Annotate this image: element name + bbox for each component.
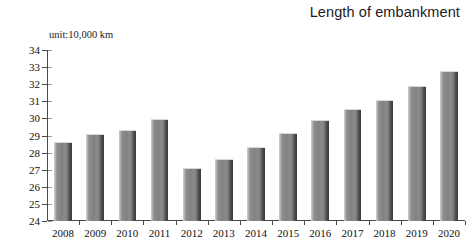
- x-axis-tick: [240, 221, 241, 225]
- bar-group: 2020: [440, 50, 458, 221]
- bar-group: 2014: [247, 50, 265, 221]
- x-axis-tick: [143, 221, 144, 225]
- bar: [440, 71, 458, 221]
- x-axis-tick-label: 2016: [309, 227, 331, 239]
- y-axis-tick-label: 29: [29, 130, 40, 142]
- x-axis-tick: [208, 221, 209, 225]
- x-axis-tick: [272, 221, 273, 225]
- x-axis-tick: [336, 221, 337, 225]
- x-axis-tick-label: 2008: [52, 227, 74, 239]
- y-axis-tick-label: 27: [29, 164, 40, 176]
- bar: [376, 100, 394, 221]
- bar-group: 2019: [408, 50, 426, 221]
- y-axis-tick: [42, 187, 47, 188]
- bar: [311, 120, 329, 221]
- y-axis-tick-label: 26: [29, 181, 40, 193]
- bar-group: 2018: [376, 50, 394, 221]
- y-axis-grid-stub: [48, 170, 52, 171]
- y-axis-tick-label: 28: [29, 147, 40, 159]
- y-axis-tick-label: 24: [29, 215, 40, 227]
- bar: [183, 168, 201, 221]
- y-axis-tick: [42, 136, 47, 137]
- bar-group: 2008: [54, 50, 72, 221]
- bar: [408, 86, 426, 221]
- bar: [54, 142, 72, 221]
- plot-area: 2425262728293031323334 20082009201020112…: [47, 50, 465, 221]
- y-axis-tick-label: 34: [29, 44, 40, 56]
- x-axis-tick: [79, 221, 80, 225]
- x-axis-tick-label: 2010: [116, 227, 138, 239]
- y-axis-tick-label: 31: [29, 95, 40, 107]
- y-axis-tick-label: 30: [29, 112, 40, 124]
- x-axis-tick-label: 2015: [277, 227, 299, 239]
- x-axis-tick: [369, 221, 370, 225]
- bar-group: 2015: [279, 50, 297, 221]
- x-axis-tick-label: 2009: [84, 227, 106, 239]
- y-axis-tick: [42, 221, 47, 222]
- chart-title: Length of embankment: [310, 4, 460, 20]
- y-axis-tick: [42, 50, 47, 51]
- y-axis-tick-label: 33: [29, 61, 40, 73]
- bar: [247, 147, 265, 221]
- x-axis-tick-label: 2014: [245, 227, 267, 239]
- y-axis-grid-stub: [48, 67, 52, 68]
- y-axis-tick: [42, 153, 47, 154]
- y-axis-tick-label: 32: [29, 78, 40, 90]
- y-axis-tick: [42, 170, 47, 171]
- y-axis-grid-stub: [48, 153, 52, 154]
- bar: [344, 109, 362, 221]
- y-axis-tick: [42, 118, 47, 119]
- y-axis-grid-stub: [48, 187, 52, 188]
- bar-group: 2010: [119, 50, 137, 221]
- bar-group: 2017: [344, 50, 362, 221]
- bar-group: 2013: [215, 50, 233, 221]
- x-axis-tick-label: 2017: [341, 227, 363, 239]
- y-axis-grid-stub: [48, 84, 52, 85]
- y-axis-tick: [42, 204, 47, 205]
- x-axis-tick: [465, 221, 466, 225]
- y-axis-grid-stub: [48, 136, 52, 137]
- x-axis-tick-label: 2011: [149, 227, 171, 239]
- x-axis-tick-label: 2020: [438, 227, 460, 239]
- bar-chart: Length of embankment unit:10,000 km 2425…: [0, 0, 472, 249]
- x-axis-tick: [433, 221, 434, 225]
- y-axis-tick: [42, 101, 47, 102]
- x-axis-tick-label: 2019: [406, 227, 428, 239]
- y-axis-grid-stub: [48, 50, 52, 51]
- y-axis-grid-stub: [48, 221, 52, 222]
- x-axis-tick-label: 2012: [181, 227, 203, 239]
- x-axis-tick: [401, 221, 402, 225]
- bar-group: 2011: [151, 50, 169, 221]
- bar-group: 2016: [311, 50, 329, 221]
- y-axis-tick: [42, 84, 47, 85]
- bar: [86, 134, 104, 221]
- bar: [151, 119, 169, 221]
- x-axis-tick-label: 2018: [374, 227, 396, 239]
- bar-group: 2012: [183, 50, 201, 221]
- bar: [215, 159, 233, 221]
- x-axis-tick: [176, 221, 177, 225]
- y-axis-grid-stub: [48, 118, 52, 119]
- unit-label: unit:10,000 km: [49, 29, 113, 40]
- y-axis-tick-label: 25: [29, 198, 40, 210]
- x-axis-tick: [111, 221, 112, 225]
- y-axis-grid-stub: [48, 101, 52, 102]
- bar: [119, 130, 137, 221]
- y-axis-grid-stub: [48, 204, 52, 205]
- bar: [279, 133, 297, 221]
- x-axis-tick-label: 2013: [213, 227, 235, 239]
- bar-group: 2009: [86, 50, 104, 221]
- x-axis-tick: [304, 221, 305, 225]
- y-axis-tick: [42, 67, 47, 68]
